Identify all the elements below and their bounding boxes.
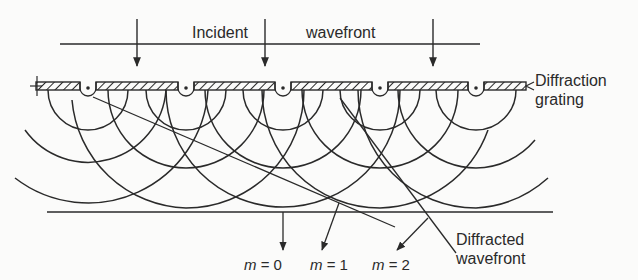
huygens-wavelets [15, 90, 548, 208]
slit-point-icon [184, 86, 188, 90]
order-value: = 2 [385, 256, 410, 273]
slit-point-icon [281, 86, 285, 90]
order-var: m [244, 256, 257, 273]
order-value: = 0 [257, 256, 282, 273]
diffraction-diagram: Incident wavefront Diffraction grating D… [0, 0, 638, 280]
diffracted-label-line1: Diffracted [456, 231, 524, 248]
wavefront-label: wavefront [306, 24, 375, 41]
order-var: m [372, 256, 385, 273]
order-value: = 1 [323, 256, 348, 273]
diagram-drawing [0, 0, 638, 280]
slit-point-icon [86, 86, 90, 90]
order-label-m0: m = 0 [244, 256, 282, 273]
incident-label: Incident [192, 24, 248, 41]
incident-wavefront [60, 19, 480, 66]
grating-label-line1: Diffraction [535, 72, 607, 89]
slit-point-icon [378, 86, 382, 90]
diffracted-label-line2: wavefront [456, 250, 525, 267]
diffracted-wavefronts [93, 97, 456, 253]
grating-label-line2: grating [535, 91, 584, 108]
order-2-arrow-icon [397, 218, 428, 250]
slit-point-icon [474, 86, 478, 90]
order-label-m2: m = 2 [372, 256, 410, 273]
order-1-arrow-icon [322, 203, 339, 250]
order-var: m [310, 256, 323, 273]
order-label-m1: m = 1 [310, 256, 348, 273]
